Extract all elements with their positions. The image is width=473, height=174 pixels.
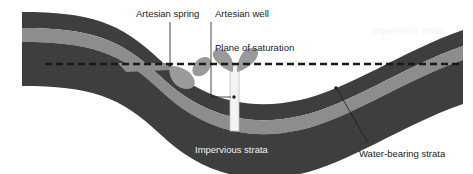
label-artesian-well: Artesian well <box>215 8 269 19</box>
diagram-canvas: Artesian spring Artesian well Plane of s… <box>0 0 473 174</box>
leader-dot-artesian-well <box>232 95 235 98</box>
leader-dot-water-bearing-strata <box>334 86 337 89</box>
label-water-bearing-strata: Water-bearing strata <box>359 148 445 159</box>
label-impervious-strata-top: Impervious strata <box>372 25 445 36</box>
label-plane-of-saturation: Plane of saturation <box>215 42 294 53</box>
label-artesian-spring: Artesian spring <box>136 8 199 19</box>
label-impervious-strata-bottom: Impervious strata <box>195 144 268 155</box>
well-spray-outer-blob <box>192 57 211 76</box>
leader-dot-artesian-spring <box>168 63 171 66</box>
